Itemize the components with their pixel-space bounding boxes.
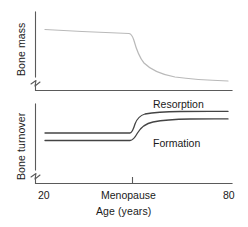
series-label-formation: Formation <box>153 138 200 149</box>
x-axis-label: Age (years) <box>96 206 151 217</box>
x-tick-label-80: 80 <box>223 190 235 201</box>
y-axis-label-bone-mass: Bone mass <box>16 23 27 76</box>
axis-break-icon-bone-turnover <box>31 174 40 180</box>
x-tick-label-20: 20 <box>38 190 50 201</box>
x-tick-label-menopause: Menopause <box>101 190 156 201</box>
curve-resorption <box>45 111 228 133</box>
series-label-resorption: Resorption <box>153 99 204 110</box>
axis-break-icon-bone-mass <box>31 81 40 87</box>
y-axis-label-bone-turnover: Bone turnover <box>16 113 27 180</box>
curve-bone-mass <box>45 30 228 82</box>
panel-bone-mass <box>31 12 232 91</box>
panel-bone-turnover <box>31 104 232 184</box>
bone-metabolism-figure: Bone mass Bone turnover 20 Menopause 80 … <box>0 0 248 227</box>
